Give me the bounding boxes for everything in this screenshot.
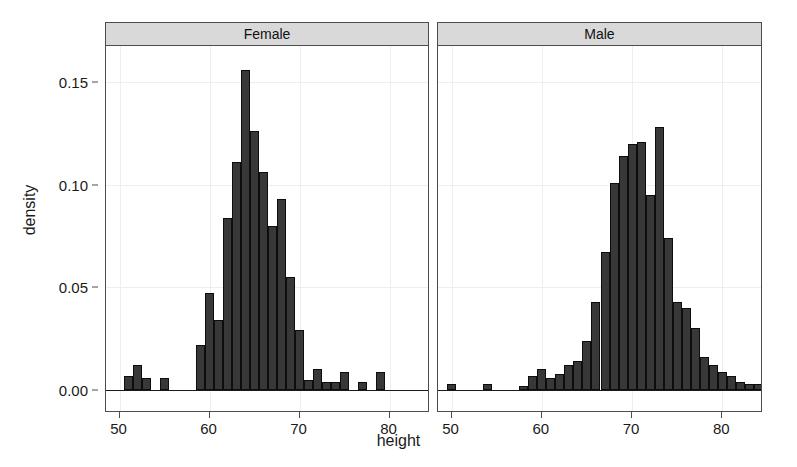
histogram-bar (286, 277, 295, 390)
histogram-bar (591, 302, 600, 390)
histogram-bar (601, 252, 610, 390)
histogram-bar (250, 131, 259, 390)
histogram-bar (537, 369, 546, 390)
histogram-bar (196, 345, 205, 390)
histogram-bar (546, 378, 555, 390)
y-axis-ticks: 0.000.050.100.15 (40, 0, 98, 467)
histogram-bar (655, 127, 664, 390)
histogram-bar (277, 199, 286, 390)
y-axis-title: density (18, 0, 42, 420)
histogram-bar (205, 293, 214, 390)
histogram-bar (232, 162, 241, 390)
histogram-bar (727, 376, 736, 390)
histogram-bar (376, 372, 385, 390)
x-tick-mark (631, 412, 632, 418)
histogram-bar (313, 369, 322, 390)
histogram-bar (673, 302, 682, 390)
panel-strip-text: Male (584, 26, 614, 42)
x-axis-title: height (0, 432, 797, 450)
x-axis-title-text: height (377, 432, 421, 449)
histogram-bar (610, 183, 619, 390)
histogram-bar (358, 382, 367, 390)
y-tick-label: 0.10 (59, 176, 88, 193)
histogram-bar (619, 156, 628, 390)
histogram-bar (331, 382, 340, 390)
x-tick-mark (209, 412, 210, 418)
x-tick-mark (119, 412, 120, 418)
panel-plot-area-female (105, 46, 429, 412)
y-tick-mark (92, 184, 98, 185)
histogram-bar (214, 320, 223, 390)
x-tick-mark (721, 412, 722, 418)
histogram-bar (573, 361, 582, 390)
panel-plot-area-male (437, 46, 762, 412)
x-tick-mark (541, 412, 542, 418)
histogram-bar (124, 376, 133, 390)
histogram-bar (700, 357, 709, 390)
facet-panel-male: Male50607080 (437, 22, 762, 412)
histogram-chart: density 0.000.050.100.15 Female50607080M… (0, 0, 797, 467)
histogram-bar (691, 328, 700, 390)
histogram-bar (682, 308, 691, 390)
x-tick-mark (451, 412, 452, 418)
facet-panel-female: Female50607080 (105, 22, 429, 412)
histogram-bar (528, 376, 537, 390)
panel-strip-label-female: Female (105, 22, 429, 46)
histogram-bar (295, 330, 304, 390)
histogram-bar (646, 195, 655, 390)
histogram-bar (160, 378, 169, 390)
histogram-bar (268, 226, 277, 390)
histogram-bar (637, 142, 646, 390)
histogram-bar (142, 378, 151, 390)
bars-layer (106, 46, 428, 411)
histogram-bar (736, 382, 745, 390)
histogram-bar (322, 382, 331, 390)
y-tick-mark (92, 390, 98, 391)
histogram-bar (664, 238, 673, 390)
histogram-bar (582, 341, 591, 390)
y-tick-label: 0.15 (59, 74, 88, 91)
y-axis-title-text: density (21, 185, 39, 236)
bars-layer (438, 46, 761, 411)
x-tick-mark (299, 412, 300, 418)
histogram-bar (241, 70, 250, 390)
axis-baseline (438, 390, 761, 391)
histogram-bar (340, 372, 349, 390)
histogram-bar (304, 380, 313, 390)
y-tick-mark (92, 287, 98, 288)
axis-baseline (106, 390, 428, 391)
y-tick-label: 0.05 (59, 279, 88, 296)
histogram-bar (709, 365, 718, 390)
histogram-bar (555, 374, 564, 390)
x-tick-mark (389, 412, 390, 418)
histogram-bar (133, 365, 142, 390)
histogram-bar (564, 365, 573, 390)
histogram-bar (259, 172, 268, 390)
histogram-bar (628, 144, 637, 390)
histogram-bar (223, 218, 232, 390)
y-tick-mark (92, 82, 98, 83)
histogram-bar (718, 372, 727, 390)
y-tick-label: 0.00 (59, 382, 88, 399)
panel-strip-label-male: Male (437, 22, 762, 46)
panel-strip-text: Female (244, 26, 291, 42)
